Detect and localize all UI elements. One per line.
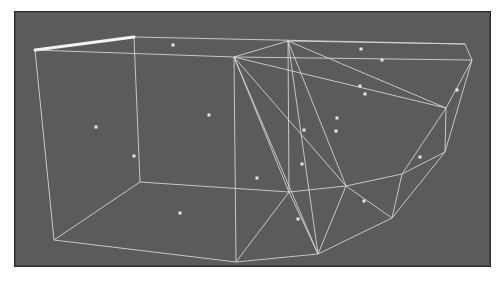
mesh-edge (288, 41, 289, 192)
mesh-edge (402, 108, 446, 174)
mesh-edge (346, 186, 392, 218)
selected-edge[interactable] (35, 37, 134, 50)
mesh-edge (54, 182, 140, 240)
face-center-point[interactable] (360, 48, 363, 51)
mesh-edge (318, 218, 392, 254)
mesh-edge (236, 192, 289, 262)
face-center-point[interactable] (359, 85, 362, 88)
mesh-edge (234, 57, 472, 60)
mesh-edge (234, 41, 288, 57)
mesh-edge (234, 57, 346, 186)
mesh-edge (346, 174, 402, 186)
mesh-edge (465, 44, 472, 60)
face-center-point[interactable] (179, 212, 182, 215)
face-center-point[interactable] (419, 156, 422, 159)
face-center-point[interactable] (381, 59, 384, 62)
mesh-edge (288, 41, 346, 186)
mesh-edge (288, 41, 465, 44)
mesh-edge (140, 182, 289, 192)
face-center-point[interactable] (335, 130, 338, 133)
face-center-point[interactable] (208, 114, 211, 117)
face-center-point[interactable] (297, 218, 300, 221)
face-center-point[interactable] (301, 163, 304, 166)
face-center-point[interactable] (363, 200, 366, 203)
mesh-edge (234, 57, 318, 254)
mesh-edge (234, 57, 446, 108)
face-center-point[interactable] (364, 93, 367, 96)
mesh-edge (234, 57, 236, 262)
mesh-edge (402, 152, 445, 174)
mesh-edge (289, 186, 346, 192)
mesh-edge (446, 60, 472, 108)
face-center-point[interactable] (256, 177, 259, 180)
mesh-edge (54, 240, 236, 262)
face-center-point[interactable] (95, 126, 98, 129)
mesh-edge (445, 108, 446, 152)
wireframe-mesh[interactable] (0, 0, 502, 283)
mesh-edge (288, 41, 446, 108)
mesh-edge (35, 50, 54, 240)
face-center-point[interactable] (303, 129, 306, 132)
mesh-edge (134, 37, 140, 182)
face-center-point[interactable] (456, 89, 459, 92)
face-center-point[interactable] (336, 117, 339, 120)
face-center-point[interactable] (172, 44, 175, 47)
mesh-edge (236, 254, 318, 262)
mesh-edge (318, 186, 346, 254)
face-center-point[interactable] (133, 155, 136, 158)
mesh-edge (445, 60, 472, 152)
